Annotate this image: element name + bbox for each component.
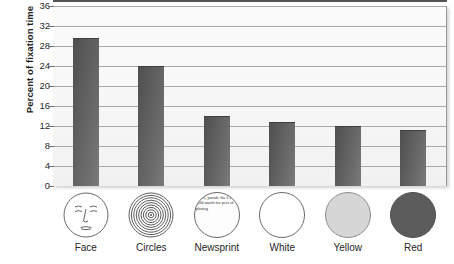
y-tick-mark-20 [48, 86, 54, 87]
gridline-36 [53, 6, 446, 7]
x-label-face: Face [51, 242, 121, 253]
x-label-yellow: Yellow [313, 242, 383, 253]
gridline-12 [53, 126, 446, 127]
bar-white [269, 122, 295, 186]
newsprint-text: llows, parade the Court, hold much for p… [196, 195, 240, 212]
y-tick-mark-0 [48, 186, 54, 187]
y-tick-mark-28 [48, 46, 54, 47]
x-axis-category-labels: FaceCirclesNewsprintWhiteYellowRed [53, 242, 446, 260]
y-tick-mark-24 [48, 66, 54, 67]
bar-yellow [335, 126, 361, 187]
gridline-32 [53, 26, 446, 27]
bar-face [73, 38, 99, 187]
newsprint-icon: llows, parade the Court, hold much for p… [189, 190, 245, 240]
x-label-red: Red [378, 242, 448, 253]
x-label-white: White [247, 242, 317, 253]
gridline-16 [53, 106, 446, 107]
bar-newsprint [204, 116, 230, 186]
y-tick-mark-36 [48, 6, 54, 7]
red-disc-icon [385, 190, 441, 240]
x-label-circles: Circles [116, 242, 186, 253]
concentric-circles-icon [123, 190, 179, 240]
bar-red [400, 130, 426, 186]
yellow-disc-icon [320, 190, 376, 240]
bar-circles [138, 66, 164, 186]
y-axis-tick-labels: 04812162024283236 [28, 0, 50, 190]
bar-chart-figure: Percent of fixation time 048121620242832… [0, 0, 454, 264]
stimulus-icons-row: llows, parade the Court, hold much for p… [53, 190, 446, 242]
plot-area [53, 6, 447, 186]
white-disc-icon [254, 190, 310, 240]
face-icon [58, 190, 114, 240]
y-tick-mark-32 [48, 26, 54, 27]
gridline-28 [53, 46, 446, 47]
gridline-24 [53, 66, 446, 67]
gridline-4 [53, 166, 446, 167]
x-label-newsprint: Newsprint [182, 242, 252, 253]
gridline-8 [53, 146, 446, 147]
y-tick-mark-12 [48, 126, 54, 127]
x-axis-baseline [53, 0, 447, 2]
gridline-20 [53, 86, 446, 87]
y-tick-mark-8 [48, 146, 54, 147]
y-tick-mark-4 [48, 166, 54, 167]
y-tick-mark-16 [48, 106, 54, 107]
